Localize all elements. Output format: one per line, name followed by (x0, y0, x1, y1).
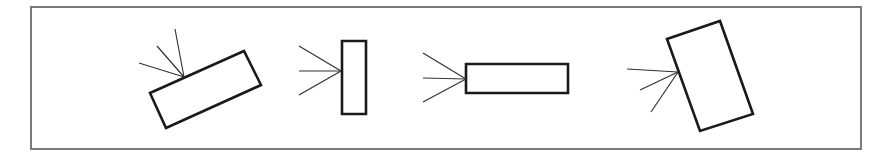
diagram-canvas (0, 0, 887, 160)
figure-vertical-rectangle (299, 41, 366, 114)
ray-line (175, 29, 184, 77)
converging-rays (627, 69, 678, 112)
figure-steep-tilted-rectangle (627, 21, 753, 131)
figure-tilted-rectangle (139, 29, 261, 128)
converging-rays (139, 29, 184, 77)
rectangle-shape (342, 41, 366, 114)
ray-line (627, 69, 678, 72)
rectangle-shape (667, 21, 753, 131)
converging-rays (423, 53, 466, 102)
converging-rays (299, 46, 341, 95)
ray-line (423, 53, 466, 79)
ray-line (423, 78, 466, 79)
figure-horizontal-rectangle (423, 53, 568, 102)
rectangle-shape (466, 64, 568, 93)
ray-line (423, 79, 466, 102)
rectangle-shape (150, 51, 261, 128)
ray-line (299, 46, 341, 71)
ray-line (299, 71, 341, 95)
